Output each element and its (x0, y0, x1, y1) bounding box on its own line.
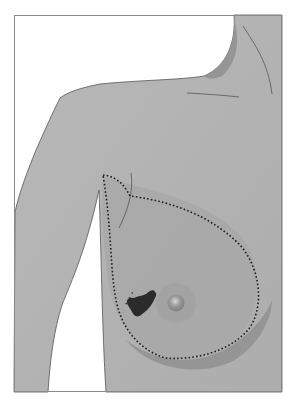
breast-anatomy-figure (0, 0, 293, 403)
nipple (168, 295, 185, 312)
